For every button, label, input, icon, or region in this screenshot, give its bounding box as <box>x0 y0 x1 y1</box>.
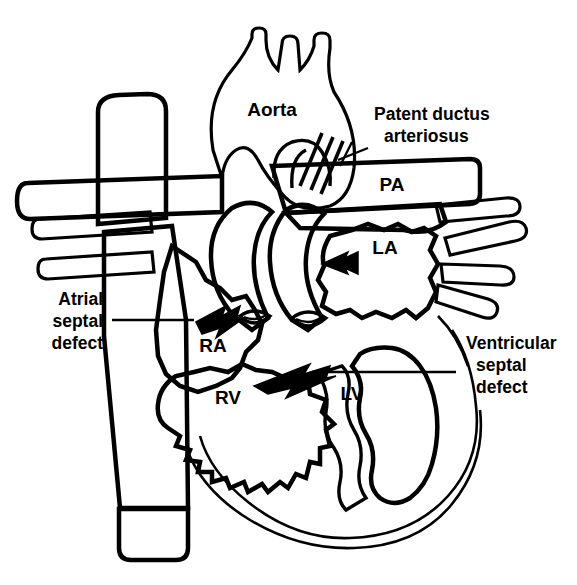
label-rv: RV <box>215 387 241 408</box>
heart-diagram: Aorta PA RA RV LV LA Patent ductus arter… <box>0 0 577 585</box>
callout-vsd-line-3: defect <box>476 377 528 397</box>
callout-pda-line-1: Patent ductus <box>374 104 490 124</box>
callout-pda-line-2: arteriosus <box>384 126 469 146</box>
callout-vsd-line-2: septal <box>476 355 527 375</box>
label-lv-group: LV <box>341 383 364 404</box>
callout-asd-line-2: septal <box>52 311 103 331</box>
callout-vsd-line-1: Ventricular <box>466 333 557 353</box>
label-rv-group: RV <box>215 387 241 408</box>
label-pa: PA <box>380 174 405 195</box>
heart-diagram-canvas: Aorta PA RA RV LV LA Patent ductus arter… <box>0 0 577 585</box>
callout-atrial-septal-defect: Atrial septal defect <box>51 289 103 353</box>
label-la-group: LA <box>372 237 398 258</box>
label-pa-group: PA <box>380 174 405 195</box>
label-lv: LV <box>341 383 364 404</box>
label-ra: RA <box>199 335 227 356</box>
callout-asd-line-1: Atrial <box>58 289 103 309</box>
label-ra-group: RA <box>199 335 227 356</box>
label-la: LA <box>372 237 398 258</box>
label-aorta-group: Aorta <box>247 99 297 120</box>
label-aorta: Aorta <box>247 99 297 120</box>
callout-asd-line-3: defect <box>51 333 103 353</box>
